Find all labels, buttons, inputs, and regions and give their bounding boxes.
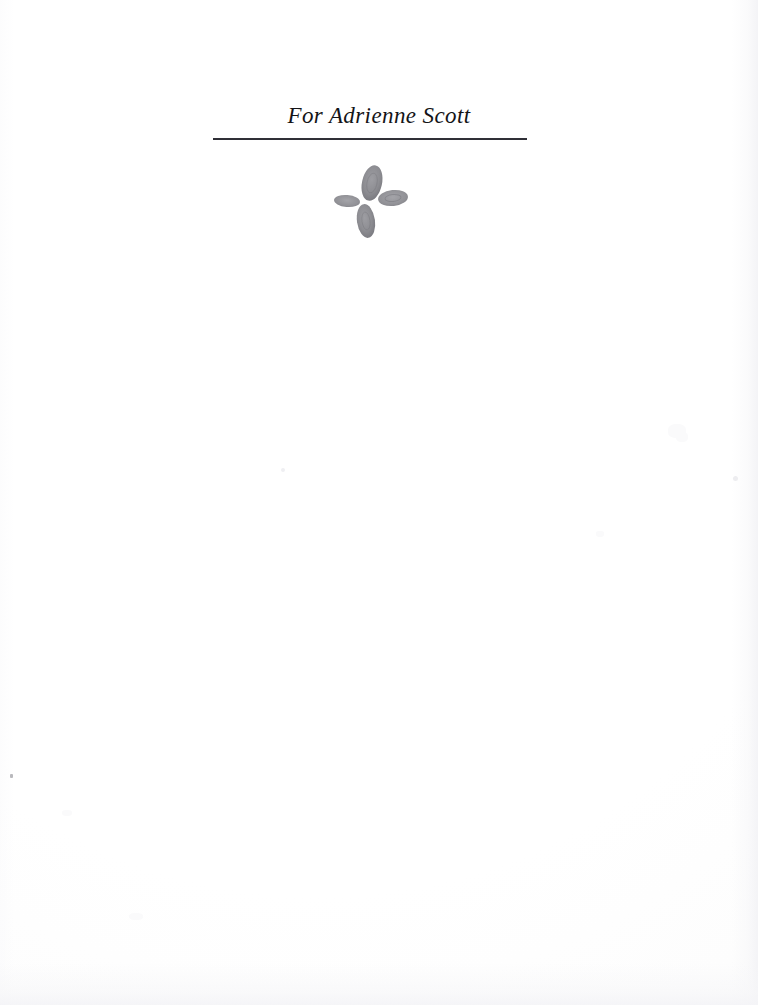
ornament-petal-right (377, 188, 409, 207)
dedication-horizontal-rule (213, 138, 527, 140)
paper-left-edge-shade (0, 0, 14, 1005)
dedication-text: For Adrienne Scott (0, 103, 758, 129)
scan-smudge (129, 913, 143, 920)
scan-smudge (676, 432, 688, 442)
ornament-petal-left (334, 194, 361, 208)
scan-smudge (596, 531, 604, 537)
dedication-page: For Adrienne Scott (0, 0, 758, 1005)
paper-bottom-edge-shade (0, 963, 758, 1005)
paper-right-edge-shade (732, 0, 758, 1005)
paper-background (0, 0, 758, 1005)
scan-speck (281, 468, 285, 472)
four-petal-floral-ornament (331, 163, 413, 241)
dust-speck (10, 774, 13, 778)
ornament-petal-bottom (355, 203, 378, 239)
scan-speck (733, 476, 738, 481)
scan-smudge (62, 810, 72, 816)
